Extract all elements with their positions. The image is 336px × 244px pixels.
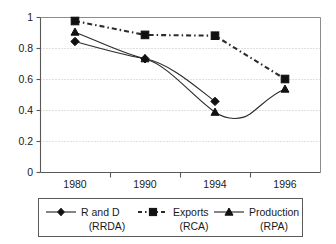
y-axis-label-0.4: 0.4 [18, 104, 33, 116]
x-axis-label-1980: 1980 [63, 178, 87, 190]
data-point-exports-1996 [281, 75, 289, 83]
x-axis-label-1990: 1990 [133, 178, 157, 190]
legend-label-production-line2: (RPA) [260, 220, 288, 232]
data-point-exports-1990 [141, 31, 149, 39]
x-axis-label-1994: 1994 [203, 178, 227, 190]
y-axis-label-0.2: 0.2 [18, 135, 33, 147]
legend-label-exports-line2: (RCA) [179, 220, 208, 232]
data-point-exports-1994 [211, 32, 219, 40]
y-axis-label-0: 0 [27, 166, 33, 178]
y-axis-label-0.8: 0.8 [18, 42, 33, 54]
legend-label-rand-d-line2: (RRDA) [89, 220, 126, 232]
chart-figure: 1 0.8 0.6 0.4 0.2 0 1980 1990 1994 1996 [0, 0, 336, 244]
chart-legend: R and D (RRDA) Exports (RCA) Production … [39, 199, 303, 237]
y-axis-label-0.6: 0.6 [18, 73, 33, 85]
legend-label-rand-d-line1: R and D [81, 206, 120, 218]
y-axis-label-1: 1 [27, 11, 33, 23]
legend-label-exports-line1: Exports [173, 206, 209, 218]
x-axis-label-1996: 1996 [273, 178, 297, 190]
legend-label-production-line1: Production [249, 206, 299, 218]
data-point-exports-1980 [71, 17, 79, 25]
line-chart: 1 0.8 0.6 0.4 0.2 0 1980 1990 1994 1996 [0, 0, 336, 244]
square-marker-icon [149, 208, 156, 215]
